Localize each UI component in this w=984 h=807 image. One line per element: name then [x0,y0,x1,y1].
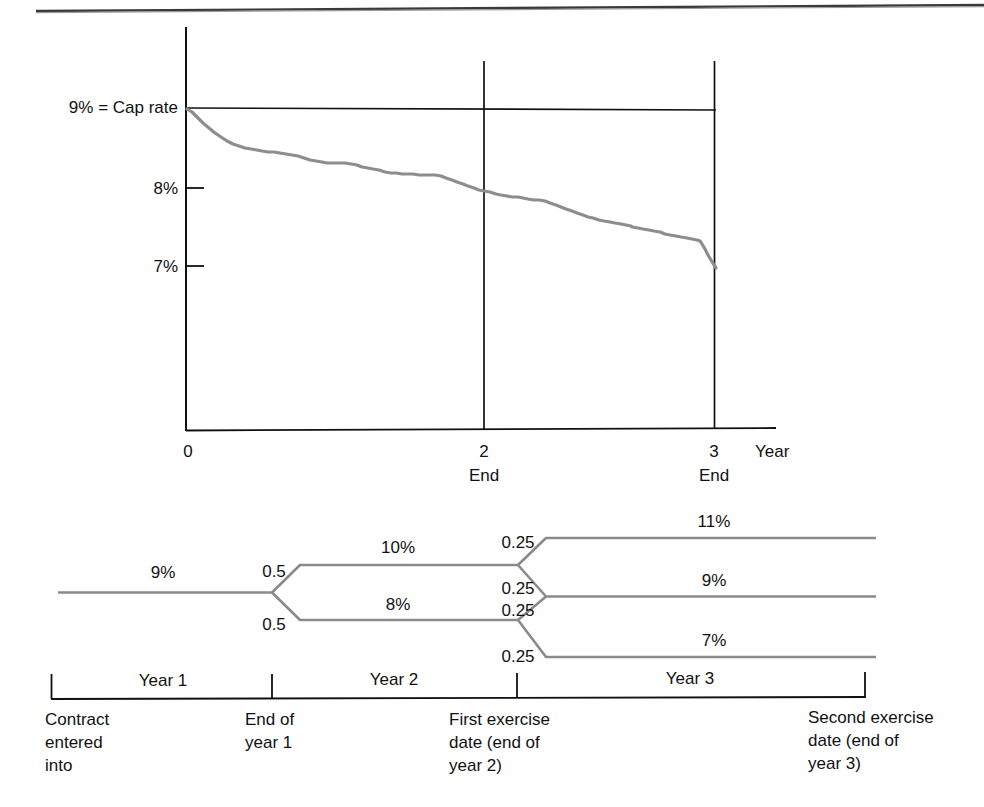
caption-4-line-2: date (end of [808,731,899,750]
caption-3-line-1: First exercise [449,710,550,729]
tree-label-rate-8pct: 8% [386,595,411,614]
figure-container: 9% = Cap rate 8% 7% 0 2 End 3 End Year 9… [0,0,984,807]
x-label-2: 2 [479,442,488,461]
y-label-cap-rate: 9% = Cap rate [69,98,178,117]
timeline-segment-year-1: Year 1 [139,671,188,690]
y-label-8pct: 8% [153,179,178,198]
rate-path-chart: 9% = Cap rate 8% 7% 0 2 End 3 End Year [69,27,790,485]
top-rule [36,5,984,13]
timeline-caption-contract-entered-into: Contract entered into [45,710,110,775]
x-axis-title: Year [755,442,790,461]
tree-prob-down-year2: 0.5 [262,615,286,634]
tree-branch-down-down-year3 [518,620,876,657]
timeline-caption-second-exercise-date: Second exercise date (end of year 3) [808,708,934,773]
caption-3-line-2: date (end of [449,733,540,752]
tree-label-rate-10pct: 10% [381,538,415,557]
timeline-segment-year-2: Year 2 [370,670,419,689]
timeline: Year 1 Year 2 Year 3 Contract entered in… [45,669,934,775]
cap-rate-line [186,108,716,110]
interest-rate-tree: 9% 0.5 0.5 10% 8% 0.25 0.25 0.25 0.25 11… [58,512,876,666]
caption-4-line-3: year 3) [808,754,861,773]
x-sublabel-3-end: End [699,466,729,485]
y-label-7pct: 7% [153,257,178,276]
timeline-caption-first-exercise-date: First exercise date (end of year 2) [449,710,550,775]
caption-2-line-1: End of [245,710,294,729]
market-rate-curve [187,109,716,268]
tree-branch-up-year2 [272,565,518,593]
x-label-0: 0 [183,442,192,461]
x-label-3: 3 [709,442,718,461]
caption-1-line-2: entered [45,733,103,752]
tree-prob-dd-year3: 0.25 [501,647,534,666]
caption-1-line-3: into [45,756,72,775]
tree-prob-du-year3: 0.25 [501,601,534,620]
x-sublabel-2-end: End [469,466,499,485]
timeline-caption-end-of-year-1: End of year 1 [245,710,294,752]
caption-3-line-3: year 2) [449,756,502,775]
timeline-segment-year-3: Year 3 [666,669,715,688]
tree-prob-ud-year3: 0.25 [501,579,534,598]
tree-label-rate-9pct: 9% [702,571,727,590]
tree-label-root-rate: 9% [151,563,176,582]
tree-branch-up-up-year3 [518,538,876,565]
caption-1-line-1: Contract [45,710,110,729]
tree-label-rate-11pct: 11% [698,512,731,531]
tree-branch-up-down-year3 [518,565,876,597]
tree-prob-uu-year3: 0.25 [501,533,534,552]
figure-svg: 9% = Cap rate 8% 7% 0 2 End 3 End Year 9… [0,0,984,807]
timeline-baseline [51,697,866,699]
caption-4-line-1: Second exercise [808,708,934,727]
caption-2-line-2: year 1 [245,733,292,752]
tree-prob-up-year2: 0.5 [262,562,286,581]
chart-x-axis [186,428,776,431]
tree-label-rate-7pct: 7% [702,631,727,650]
